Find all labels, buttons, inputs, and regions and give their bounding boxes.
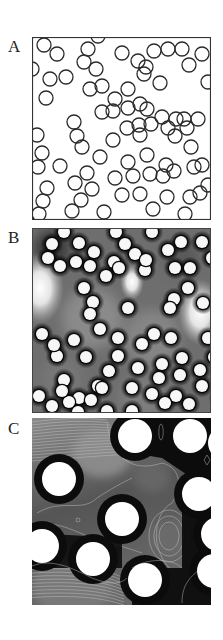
particle-disc: [148, 328, 160, 340]
particle-disc: [96, 382, 108, 394]
particle-disc: [170, 390, 182, 402]
particle-disc: [126, 382, 138, 394]
panel-b-svg: [32, 228, 211, 413]
particle-disc: [119, 238, 131, 250]
particle-disc: [132, 362, 144, 374]
panel-c-contour-map: [32, 418, 211, 605]
particle-disc: [164, 302, 176, 314]
particle-disc: [122, 302, 134, 314]
particle-disc: [103, 365, 115, 377]
particle-disc: [36, 328, 48, 340]
particle-disc: [153, 372, 165, 384]
particle-disc: [46, 238, 58, 250]
particle-disc: [68, 334, 80, 346]
particle-disc: [80, 351, 92, 363]
panel-a-svg: [32, 37, 211, 220]
particle-disc: [169, 262, 181, 274]
particle-disc: [136, 338, 148, 350]
particle-disc: [176, 352, 188, 364]
particle-disc: [87, 296, 99, 308]
particle-disc: [78, 282, 90, 294]
particle-disc: [175, 236, 187, 248]
particle-disc: [73, 237, 85, 249]
particle-disc: [128, 563, 162, 597]
particle-disc: [156, 358, 168, 370]
particle-disc: [85, 394, 97, 406]
particle-disc: [94, 323, 106, 335]
particle-disc: [113, 262, 125, 274]
particle-disc: [54, 260, 66, 272]
particle-disc: [112, 332, 124, 344]
particle-disc: [197, 297, 209, 309]
particle-disc: [183, 398, 195, 410]
particle-disc: [100, 270, 112, 282]
panel-c-svg: [32, 418, 211, 605]
particle-disc: [146, 388, 158, 400]
particle-disc: [118, 419, 152, 453]
particle-disc: [56, 385, 68, 397]
particle-disc: [33, 390, 45, 402]
particle-disc: [84, 260, 96, 272]
particle-disc: [42, 252, 54, 264]
particle-disc: [63, 396, 75, 408]
particle-disc: [174, 369, 186, 381]
particle-disc: [184, 262, 196, 274]
particle-disc: [88, 246, 100, 258]
particle-disc: [140, 254, 152, 266]
particle-disc: [159, 397, 171, 409]
panel-label-c: C: [8, 420, 19, 437]
particle-disc: [196, 380, 208, 392]
particle-disc: [46, 400, 58, 412]
particle-disc: [70, 256, 82, 268]
panel-b-density-map: [32, 228, 211, 413]
panel-label-a: A: [8, 38, 20, 55]
particle-disc: [196, 236, 208, 248]
particle-disc: [165, 332, 177, 344]
particle-disc: [182, 282, 194, 294]
particle-disc: [162, 244, 174, 256]
panel-label-b: B: [8, 229, 19, 246]
particle-disc: [173, 419, 207, 453]
particle-disc: [105, 502, 139, 536]
panel-a-particle-outlines: [32, 37, 211, 220]
particle-disc: [84, 308, 96, 320]
particle-disc: [48, 339, 60, 351]
particle-disc: [42, 462, 76, 496]
particle-disc: [76, 542, 110, 576]
particle-disc: [112, 350, 124, 362]
particle-disc: [194, 364, 206, 376]
